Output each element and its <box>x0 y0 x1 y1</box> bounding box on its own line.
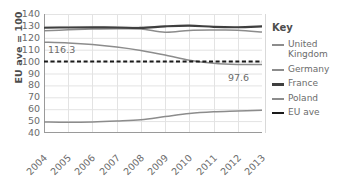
y-axis-tick-label: 120 <box>14 33 40 43</box>
y-axis-tick-label: 90 <box>14 69 40 79</box>
annotation-start-value: 116.3 <box>48 44 75 55</box>
y-axis-tick-label: 70 <box>14 93 40 103</box>
x-axis-tick-label: 2005 <box>48 152 73 177</box>
x-axis-tick-label: 2007 <box>97 152 122 177</box>
legend-item-france[interactable]: France <box>272 78 339 88</box>
legend: Key United KingdomGermanyFrancePolandEU … <box>272 22 339 122</box>
x-axis-tick-label: 2010 <box>170 152 195 177</box>
legend-swatch-icon <box>272 40 284 50</box>
legend-swatch-icon <box>272 79 284 89</box>
x-axis-tick-label: 2009 <box>145 152 170 177</box>
legend-item-poland[interactable]: Poland <box>272 93 339 103</box>
series-line-poland <box>44 110 262 122</box>
legend-title: Key <box>272 22 339 33</box>
x-axis-tick-label: 2011 <box>194 152 219 177</box>
y-axis-tick-label: 140 <box>14 9 40 19</box>
legend-item-label: EU ave <box>288 107 320 117</box>
legend-item-germany[interactable]: Germany <box>272 64 339 74</box>
y-axis-tick-label: 60 <box>14 104 40 114</box>
annotation-end-value: 97.6 <box>228 72 249 83</box>
legend-swatch-icon <box>272 65 284 75</box>
y-axis-tick-label: 110 <box>14 45 40 55</box>
y-axis-tick-label: 80 <box>14 81 40 91</box>
legend-item-united-kingdom[interactable]: United Kingdom <box>272 39 339 59</box>
legend-item-label: Poland <box>288 93 318 103</box>
legend-item-eu-ave[interactable]: EU ave <box>272 107 339 117</box>
line-chart: EU ave = 100 140130120110100908070605040… <box>0 0 339 182</box>
legend-item-label: Germany <box>288 64 329 74</box>
legend-swatch-icon <box>272 94 284 104</box>
legend-separator <box>265 14 266 133</box>
y-axis-tick-label: 40 <box>14 128 40 138</box>
legend-swatch-icon <box>272 108 284 118</box>
x-axis-tick-label: 2008 <box>121 152 146 177</box>
x-axis-tick-labels: 2004200520062007200820092010201120122013 <box>44 133 262 182</box>
legend-items: United KingdomGermanyFrancePolandEU ave <box>272 39 339 117</box>
legend-item-label: United Kingdom <box>288 39 339 59</box>
y-axis-tick-label: 130 <box>14 21 40 31</box>
y-axis-tick-label: 50 <box>14 116 40 126</box>
x-axis-tick-label: 2013 <box>242 152 267 177</box>
x-axis-tick-label: 2012 <box>218 152 243 177</box>
series-line-germany <box>44 29 262 33</box>
y-axis-tick-label: 100 <box>14 57 40 67</box>
x-axis-tick-label: 2006 <box>73 152 98 177</box>
y-axis-tick-labels: 140130120110100908070605040 <box>12 0 40 182</box>
legend-item-label: France <box>288 78 318 88</box>
